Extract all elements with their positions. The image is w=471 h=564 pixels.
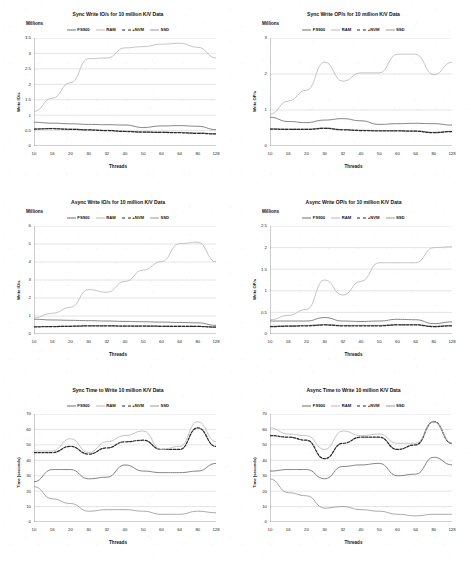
x-axis-tick-label: 64 (408, 151, 424, 156)
y-axis-tick-label: 50 (248, 442, 267, 447)
chart-title: Async Write OP/s for 10 million K/V Data (236, 199, 471, 205)
y-axis-tick-label: 70 (248, 411, 267, 416)
x-axis-tick-label: 60 (389, 151, 405, 156)
y-axis-tick-label: 3.5 (12, 35, 31, 40)
series-line-plus-nvm (34, 129, 216, 134)
legend-item-plus-nvm: +NVM (122, 403, 144, 408)
y-axis-tick-label: 60 (12, 427, 31, 432)
legend-line-icon (331, 216, 340, 220)
x-axis-tick-label: 64 (408, 527, 424, 532)
y-axis-units-label: Millions (26, 21, 43, 26)
legend-item-fs900: FS900 (302, 403, 325, 408)
legend-line-icon (150, 404, 159, 408)
x-axis-tick-label: 40 (353, 339, 369, 344)
y-axis-tick-label: 5 (12, 241, 31, 246)
chart-panel-async-time-to-write: Async Time to Write 10 million K/V DataF… (236, 376, 471, 564)
x-axis-title: Threads (236, 352, 471, 357)
x-axis-tick-label: 128 (208, 151, 224, 156)
legend-label: +NVM (368, 27, 380, 32)
x-axis-tick-label: 64 (172, 527, 188, 532)
legend-item-ssd: SSD (386, 27, 405, 32)
x-axis-tick-label: 10 (262, 151, 278, 156)
y-axis-tick-label: 3 (248, 35, 267, 40)
y-axis-tick-label: 40 (12, 458, 31, 463)
legend-item-ram: RAM (96, 403, 116, 408)
legend-item-fs900: FS900 (67, 215, 90, 220)
series-line-plus-nvm (270, 422, 452, 459)
y-axis-tick-label: 50 (12, 442, 31, 447)
x-axis-tick-label: 32 (335, 151, 351, 156)
x-axis-tick-label: 50 (135, 151, 151, 156)
y-axis-tick-label: 0.5 (248, 310, 267, 315)
x-axis-title: Threads (236, 540, 471, 545)
legend-line-icon (67, 216, 76, 220)
x-axis-tick-label: 60 (389, 339, 405, 344)
chart-title: Async Write IO/s for 10 million K/V Data (0, 199, 236, 205)
series-line-ram (270, 422, 452, 450)
y-axis-title: Write IO/s (16, 93, 21, 112)
legend-label: FS900 (77, 215, 89, 220)
y-axis-tick-label: 2 (248, 71, 267, 76)
x-axis-tick-label: 128 (208, 339, 224, 344)
x-axis-tick-label: 32 (99, 527, 115, 532)
chart-legend: FS900RAM+NVMSSD (0, 215, 236, 220)
legend-label: SSD (396, 403, 405, 408)
legend-label: +NVM (132, 403, 144, 408)
x-axis-tick-label: 20 (62, 339, 78, 344)
x-axis-tick-label: 80 (426, 527, 442, 532)
legend-line-icon (67, 28, 76, 32)
x-axis-tick-label: 64 (172, 339, 188, 344)
legend-line-icon (386, 28, 395, 32)
x-axis-tick-label: 50 (371, 527, 387, 532)
x-axis-tick-label: 60 (389, 527, 405, 532)
x-axis-tick-label: 128 (208, 527, 224, 532)
legend-item-plus-nvm: +NVM (122, 27, 144, 32)
x-axis-tick-label: 60 (153, 151, 169, 156)
x-axis-tick-label: 80 (426, 151, 442, 156)
legend-label: FS900 (77, 403, 89, 408)
x-axis-tick-label: 10 (26, 151, 42, 156)
x-axis-tick-label: 30 (317, 527, 333, 532)
y-axis-tick-label: 0 (248, 519, 267, 524)
legend-item-ram: RAM (331, 403, 351, 408)
x-axis-tick-label: 32 (99, 151, 115, 156)
legend-line-icon (96, 404, 105, 408)
x-axis-tick-label: 80 (190, 527, 206, 532)
y-axis-tick-label: 1.5 (248, 267, 267, 272)
legend-label: SSD (161, 215, 170, 220)
y-axis-tick-label: 3 (12, 277, 31, 282)
series-line-fs900 (270, 117, 452, 125)
x-axis-tick-label: 128 (444, 339, 460, 344)
legend-item-ram: RAM (331, 27, 351, 32)
legend-line-icon (150, 216, 159, 220)
legend-line-icon (122, 404, 131, 408)
x-axis-title: Threads (0, 540, 236, 545)
series-line-plus-nvm (34, 326, 216, 327)
y-axis-tick-label: 1.5 (12, 97, 31, 102)
legend-line-icon (150, 28, 159, 32)
legend-line-icon (357, 216, 366, 220)
x-axis-tick-label: 128 (444, 527, 460, 532)
y-axis-tick-label: 1 (248, 107, 267, 112)
x-axis-title: Threads (0, 352, 236, 357)
x-axis-tick-label: 40 (353, 527, 369, 532)
x-axis-tick-label: 20 (62, 151, 78, 156)
x-axis-tick-label: 80 (426, 339, 442, 344)
legend-item-fs900: FS900 (302, 215, 325, 220)
chart-panel-async-write-ops: Async Write OP/s for 10 million K/V Data… (236, 188, 471, 376)
plot-area (270, 226, 452, 334)
chart-title: Sync Write OP/s for 10 million K/V Data (236, 11, 471, 17)
legend-label: +NVM (132, 215, 144, 220)
y-axis-tick-label: 40 (248, 458, 267, 463)
y-axis-tick-label: 10 (12, 504, 31, 509)
x-axis-tick-label: 32 (335, 527, 351, 532)
y-axis-tick-label: 4 (12, 259, 31, 264)
series-line-fs900 (34, 463, 216, 482)
legend-line-icon (96, 216, 105, 220)
legend-label: FS900 (313, 215, 325, 220)
y-axis-tick-label: 30 (12, 473, 31, 478)
x-axis-tick-label: 16 (44, 339, 60, 344)
series-line-fs900 (270, 318, 452, 324)
legend-item-fs900: FS900 (67, 403, 90, 408)
legend-line-icon (357, 28, 366, 32)
